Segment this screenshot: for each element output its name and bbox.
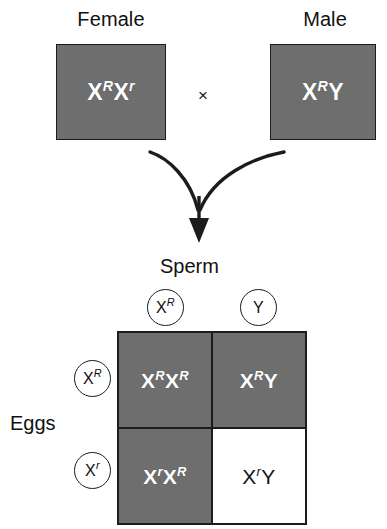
punnett-cell-bottom-left: XrXR — [119, 429, 211, 523]
sperm-label: Sperm — [160, 255, 219, 278]
punnett-cell-bottom-right: XrY — [213, 429, 305, 523]
sperm-gamete-1-sup: R — [167, 296, 175, 308]
punnett-cell-bottom-left-allele1-base: X — [143, 465, 157, 488]
sperm-gamete-1-genotype: XR — [156, 300, 175, 316]
egg-gamete-2-genotype: Xr — [85, 463, 100, 479]
cross-diagram: Female Male XRXr × XRY Sperm XR Y Eggs X… — [0, 0, 387, 529]
punnett-cell-top-left-genotype: XRXR — [141, 370, 189, 391]
sperm-gamete-2-base: Y — [253, 299, 264, 316]
sperm-gamete-1-base: X — [156, 299, 167, 316]
punnett-cell-top-left-allele2-base: X — [165, 369, 179, 392]
egg-gamete-1-genotype: XR — [83, 371, 102, 387]
punnett-cell-top-left-allele1-base: X — [141, 369, 155, 392]
punnett-cell-top-left: XRXR — [119, 333, 211, 427]
sperm-gamete-2-genotype: Y — [253, 300, 264, 316]
punnett-square: XRXR XRY XrXR XrY — [117, 331, 307, 525]
punnett-cell-top-right-allele1-sup: R — [254, 368, 263, 383]
arrow-head — [189, 218, 209, 243]
punnett-cell-top-left-allele2-sup: R — [179, 368, 188, 383]
punnett-cell-top-left-allele1-sup: R — [155, 368, 164, 383]
punnett-cell-bottom-right-allele2-base: Y — [261, 465, 275, 488]
arrow-curve-left — [150, 152, 198, 210]
punnett-cell-bottom-right-allele1-base: X — [242, 465, 256, 488]
eggs-label: Eggs — [10, 412, 56, 435]
punnett-cell-top-right-allele1-base: X — [240, 369, 254, 392]
punnett-cell-bottom-left-allele2-base: X — [163, 465, 177, 488]
egg-gamete-1-base: X — [83, 370, 94, 387]
sperm-gamete-2: Y — [240, 289, 277, 326]
punnett-cell-bottom-left-genotype: XrXR — [143, 466, 186, 487]
arrow-curve-right — [200, 152, 284, 210]
punnett-cell-bottom-left-allele2-sup: R — [177, 464, 186, 479]
egg-gamete-2-base: X — [85, 462, 96, 479]
egg-gamete-1: XR — [74, 360, 111, 397]
punnett-cell-top-right-allele2-base: Y — [264, 369, 278, 392]
punnett-cell-top-right-genotype: XRY — [240, 370, 278, 391]
egg-gamete-2-sup: r — [96, 459, 100, 471]
punnett-cell-bottom-left-allele1-sup: r — [157, 464, 162, 479]
punnett-cell-bottom-right-genotype: XrY — [242, 466, 275, 487]
punnett-cell-top-right: XRY — [213, 333, 305, 427]
sperm-gamete-1: XR — [147, 289, 184, 326]
egg-gamete-1-sup: R — [94, 367, 102, 379]
egg-gamete-2: Xr — [74, 452, 111, 489]
